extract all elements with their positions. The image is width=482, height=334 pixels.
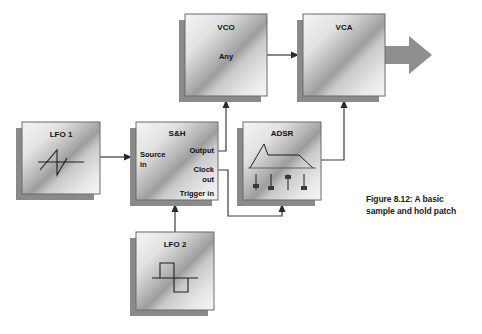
patch-diagram-svg: VCO Any VCA LFO 1 S&H Source in Output C… [0,0,482,334]
module-sh[interactable]: S&H Source in Output Clock out Trigger i… [130,122,218,206]
figure-caption-line2: sample and hold patch [366,205,456,217]
lfo2-title: LFO 2 [164,240,187,249]
vca-output-arrow-icon [383,36,432,74]
module-vco[interactable]: VCO Any [179,14,267,102]
sh-title: S&H [169,129,186,138]
figure-caption-line1: Figure 8.12: A basic [366,193,456,205]
vca-title: VCA [336,23,353,32]
wire-sh-output-to-vco [218,101,226,151]
wire-adsr-to-vca [321,101,344,160]
sh-port-output: Output [189,146,214,155]
sh-port-trigger-in: Trigger in [180,189,215,198]
diagram-canvas: VCO Any VCA LFO 1 S&H Source in Output C… [0,0,482,334]
module-lfo2[interactable]: LFO 2 [130,232,214,316]
vco-body-label: Any [219,52,234,61]
module-vca[interactable]: VCA [297,14,385,102]
vco-title: VCO [217,23,234,32]
module-adsr[interactable]: ADSR [237,122,321,206]
adsr-title: ADSR [271,129,294,138]
module-lfo1[interactable]: LFO 1 [16,122,100,200]
sh-port-source-in-line1: Source [140,150,165,159]
figure-caption: Figure 8.12: A basic sample and hold pat… [366,193,456,217]
lfo1-title: LFO 1 [50,130,73,139]
sh-port-clock-out-line2: out [202,175,214,184]
sh-port-source-in-line2: in [140,160,147,169]
sh-port-clock-out-line1: Clock [194,165,215,174]
